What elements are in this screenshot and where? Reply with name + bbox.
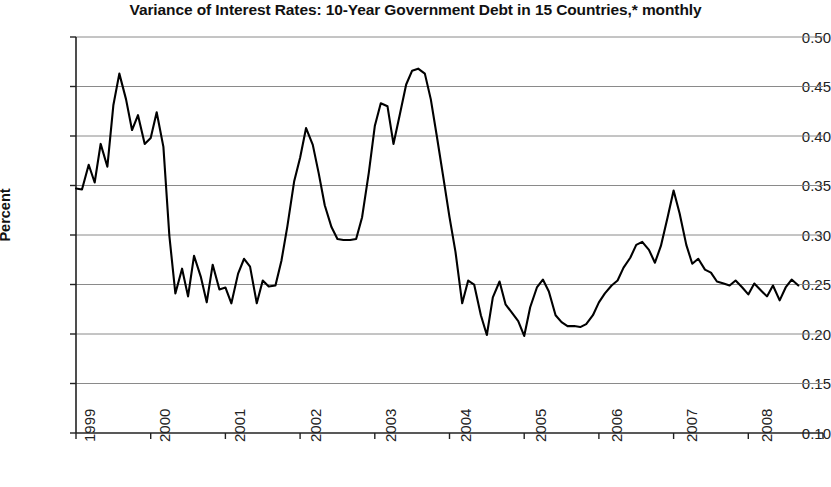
y-axis-ticks [70, 37, 76, 433]
x-axis-ticks [76, 433, 823, 439]
gridlines [76, 37, 823, 384]
plot-canvas [0, 0, 831, 487]
data-series-line [76, 69, 798, 336]
chart-figure: Variance of Interest Rates: 10-Year Gove… [0, 0, 831, 487]
